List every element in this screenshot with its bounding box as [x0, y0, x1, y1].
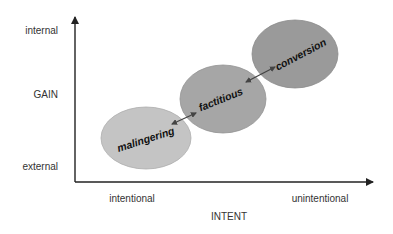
y-axis-top-label: internal — [25, 25, 58, 36]
region-malingering: malingering — [101, 107, 191, 169]
x-axis-right-label: unintentional — [292, 193, 349, 204]
region-factitious: factitious — [180, 65, 266, 133]
y-axis-title: GAIN — [34, 89, 58, 100]
x-axis-left-label: intentional — [109, 193, 155, 204]
region-conversion: conversion — [252, 20, 338, 88]
y-axis-bottom-label: external — [22, 161, 58, 172]
spectrum-diagram: conversion factitious malingering intern… — [0, 0, 393, 234]
x-axis-title: INTENT — [211, 211, 247, 222]
